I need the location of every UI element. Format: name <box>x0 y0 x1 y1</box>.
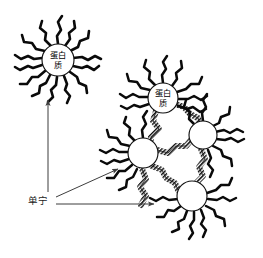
aggregate-protein-top-label-line1: 蛋白 <box>155 88 171 98</box>
tannin-label: 单宁 <box>28 195 48 206</box>
figure-canvas: 蛋白 质 <box>0 0 263 258</box>
protein-tannin-figure: 蛋白 质 <box>0 0 263 258</box>
free-protein-label-line1: 蛋白 <box>50 50 66 60</box>
aggregate-protein-right-core <box>189 121 217 149</box>
free-protein-label-line2: 质 <box>54 60 62 70</box>
aggregate-protein-left-core <box>128 138 158 168</box>
aggregate-protein-bottom-core <box>177 181 207 211</box>
aggregate-protein-top-label-line2: 质 <box>159 98 167 108</box>
